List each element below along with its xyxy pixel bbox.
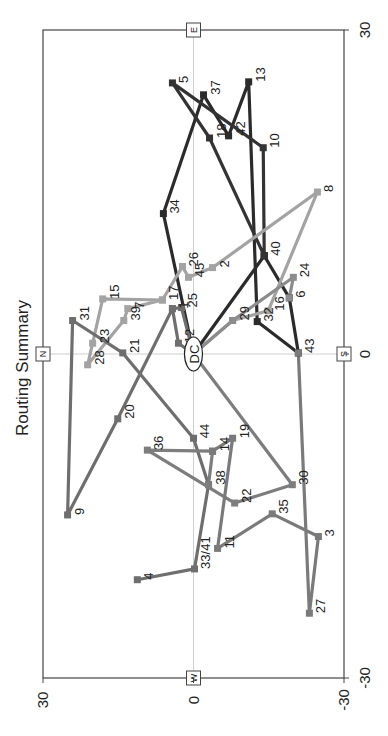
stop-label: 39 bbox=[128, 306, 143, 320]
routing-summary-chart: EWNS 12345678910111213141516171819202122… bbox=[0, 0, 388, 736]
stop-label: 19 bbox=[237, 424, 252, 438]
stop-label: 6 bbox=[293, 291, 308, 298]
stop-marker bbox=[99, 295, 106, 302]
stop-label: 2 bbox=[217, 260, 232, 267]
stop-marker bbox=[69, 317, 76, 324]
depot-label: DC bbox=[187, 345, 202, 364]
stop-marker bbox=[295, 349, 302, 356]
stop-label: 27 bbox=[313, 599, 328, 613]
chart-title: Routing Summary bbox=[13, 299, 32, 436]
stop-label: 37 bbox=[208, 80, 223, 94]
stop-marker bbox=[179, 263, 186, 270]
x-axis-tick-label: 30 bbox=[34, 692, 51, 709]
x-axis-tick-label: 0 bbox=[185, 696, 202, 704]
svg-text:N: N bbox=[38, 351, 48, 358]
stop-label: 34 bbox=[167, 199, 182, 213]
stop-label: 32 bbox=[261, 307, 276, 321]
stop-marker bbox=[191, 565, 198, 572]
stop-label: 38 bbox=[213, 470, 228, 484]
stop-label: 28 bbox=[92, 350, 107, 364]
stop-label: 29 bbox=[237, 306, 252, 320]
stop-label: 20 bbox=[122, 404, 137, 418]
stop-label: 45 bbox=[192, 263, 207, 277]
stop-label: 22 bbox=[239, 489, 254, 503]
stop-marker bbox=[175, 340, 182, 347]
stop-marker bbox=[200, 91, 207, 98]
stop-marker bbox=[64, 511, 71, 518]
stop-label: 18 bbox=[214, 124, 229, 138]
compass-n-box: N bbox=[36, 347, 50, 361]
stop-marker bbox=[169, 79, 176, 86]
stop-marker bbox=[214, 545, 221, 552]
stop-marker bbox=[205, 481, 212, 488]
stop-label: 17 bbox=[166, 286, 181, 300]
stop-marker bbox=[160, 210, 167, 217]
stop-marker bbox=[209, 448, 216, 455]
stop-marker bbox=[134, 576, 141, 583]
stop-label: 40 bbox=[268, 241, 283, 255]
stop-marker bbox=[144, 447, 151, 454]
stop-marker bbox=[269, 510, 276, 517]
stop-marker bbox=[89, 340, 96, 347]
stop-marker bbox=[289, 481, 296, 488]
stop-label: 30 bbox=[296, 470, 311, 484]
stop-label: 21 bbox=[127, 338, 142, 352]
y-axis-tick-label: 30 bbox=[356, 22, 373, 39]
stop-label: 11 bbox=[222, 535, 237, 549]
stop-marker bbox=[260, 144, 267, 151]
stop-label: 25 bbox=[185, 293, 200, 307]
stop-label: 42 bbox=[233, 121, 248, 135]
stop-label: 9 bbox=[72, 508, 87, 515]
stop-marker bbox=[206, 135, 213, 142]
stop-marker bbox=[306, 610, 313, 617]
stop-marker bbox=[120, 317, 127, 324]
stop-marker bbox=[119, 349, 126, 356]
stop-marker bbox=[229, 317, 236, 324]
svg-text:E: E bbox=[189, 27, 199, 33]
stop-label: 31 bbox=[77, 306, 92, 320]
stop-label: 23 bbox=[97, 329, 112, 343]
stop-marker bbox=[209, 264, 216, 271]
stop-marker bbox=[245, 78, 252, 85]
stop-marker bbox=[185, 274, 192, 281]
stop-marker bbox=[254, 318, 261, 325]
stop-marker bbox=[290, 274, 297, 281]
stop-marker bbox=[231, 500, 238, 507]
stop-label: 8 bbox=[321, 185, 336, 192]
stop-label: 3 bbox=[322, 529, 337, 536]
stop-label: 36 bbox=[151, 436, 166, 450]
depot-marker: DC bbox=[185, 337, 203, 371]
stop-marker bbox=[190, 435, 197, 442]
stop-marker bbox=[84, 361, 91, 368]
stop-label: 44 bbox=[198, 424, 213, 438]
compass-e-box: E bbox=[187, 23, 201, 37]
stop-label: 13 bbox=[253, 67, 268, 81]
stop-label: 35 bbox=[276, 499, 291, 513]
stop-label: 33/41 bbox=[199, 536, 214, 569]
stop-label: 5 bbox=[176, 76, 191, 83]
stop-label: 14 bbox=[217, 437, 232, 451]
stop-label: 15 bbox=[107, 284, 122, 298]
stop-marker bbox=[114, 415, 121, 422]
y-axis-tick-label: 0 bbox=[356, 350, 373, 358]
y-axis-tick-label: -30 bbox=[356, 667, 373, 689]
stop-marker bbox=[315, 533, 322, 540]
x-axis-tick-label: -30 bbox=[335, 689, 352, 711]
stop-marker bbox=[261, 252, 268, 259]
stop-label: 10 bbox=[267, 133, 282, 147]
stop-marker bbox=[159, 297, 166, 304]
stop-marker bbox=[169, 305, 176, 312]
stop-label: 4 bbox=[141, 572, 156, 579]
stop-label: 43 bbox=[302, 338, 317, 352]
stop-marker bbox=[314, 189, 321, 196]
stop-label: 24 bbox=[297, 263, 312, 277]
